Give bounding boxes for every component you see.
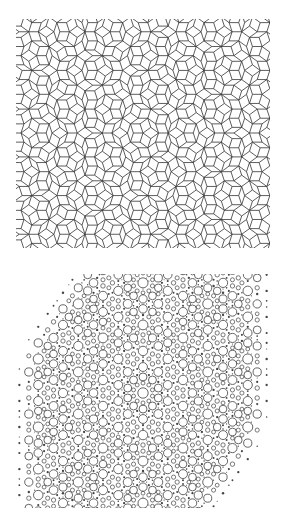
diffraction-pattern-figure <box>0 262 284 524</box>
diffraction-spots <box>18 265 268 516</box>
penrose-tiling-panel <box>0 0 284 262</box>
penrose-tiling-figure <box>0 0 284 262</box>
diffraction-pattern-panel <box>0 262 284 524</box>
tiling-edges <box>0 0 284 262</box>
